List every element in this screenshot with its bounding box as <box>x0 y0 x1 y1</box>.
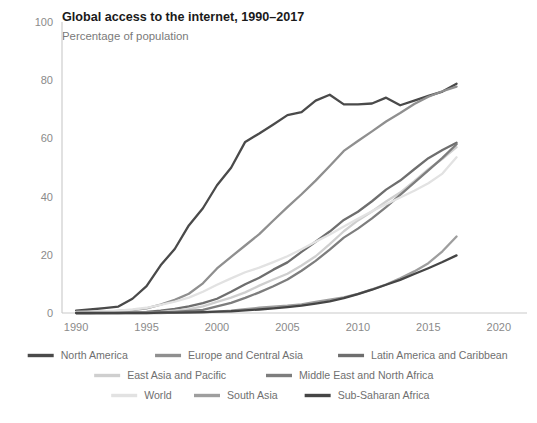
y-axis-tick-label: 100 <box>35 16 53 28</box>
chart-legend: North AmericaEurope and Central AsiaLati… <box>28 349 508 401</box>
legend-label-south-asia: South Asia <box>227 389 278 401</box>
legend-item-europe-and-central-asia[interactable]: Europe and Central Asia <box>155 349 303 361</box>
chart-titles: Global access to the internet, 1990–2017… <box>62 10 304 42</box>
legend-label-middle-east-and-north-africa: Middle East and North Africa <box>299 369 433 381</box>
x-axis-tick-label: 1995 <box>134 321 158 333</box>
legend-label-north-america: North America <box>61 349 128 361</box>
x-axis: 1990199520002005201020152020 <box>62 313 527 333</box>
legend-item-middle-east-and-north-africa[interactable]: Middle East and North Africa <box>266 369 433 381</box>
legend-item-sub-saharan-africa[interactable]: Sub-Saharan Africa <box>305 389 430 401</box>
legend-label-world: World <box>144 389 172 401</box>
y-axis-tick-label: 20 <box>41 249 53 261</box>
legend-label-east-asia-and-pacific: East Asia and Pacific <box>127 369 227 381</box>
legend-label-sub-saharan-africa: Sub-Saharan Africa <box>338 389 430 401</box>
legend-item-south-asia[interactable]: South Asia <box>194 389 278 401</box>
x-axis-tick-label: 2000 <box>205 321 229 333</box>
legend-item-east-asia-and-pacific[interactable]: East Asia and Pacific <box>94 369 227 381</box>
x-axis-tick-label: 2020 <box>487 321 511 333</box>
y-axis-tick-label: 40 <box>41 191 53 203</box>
x-axis-tick-label: 2010 <box>346 321 370 333</box>
chart-title: Global access to the internet, 1990–2017 <box>62 10 304 24</box>
y-axis-tick-label: 0 <box>47 307 53 319</box>
legend-item-world[interactable]: World <box>111 389 172 401</box>
chart-subtitle: Percentage of population <box>62 30 189 42</box>
x-axis-tick-label: 2005 <box>275 321 299 333</box>
y-axis-tick-label: 60 <box>41 132 53 144</box>
series-lines <box>76 84 456 313</box>
internet-access-line-chart: Global access to the internet, 1990–2017… <box>0 0 537 423</box>
x-axis-tick-label: 2015 <box>416 321 440 333</box>
y-axis-tick-label: 80 <box>41 74 53 86</box>
legend-label-europe-and-central-asia: Europe and Central Asia <box>188 349 303 361</box>
legend-item-latin-america-and-caribbean[interactable]: Latin America and Caribbean <box>338 349 508 361</box>
y-axis: 020406080100 <box>35 16 62 319</box>
chart-container: Global access to the internet, 1990–2017… <box>0 0 537 423</box>
legend-item-north-america[interactable]: North America <box>28 349 128 361</box>
legend-label-latin-america-and-caribbean: Latin America and Caribbean <box>371 349 508 361</box>
x-axis-tick-label: 1990 <box>64 321 88 333</box>
